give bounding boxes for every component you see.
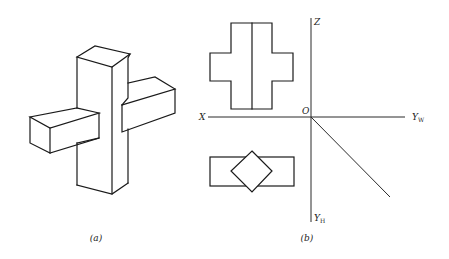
post-top-face: [77, 46, 130, 67]
projection-axes: [208, 18, 405, 222]
post-bottom-edge: [77, 183, 128, 194]
yh-axis-subscript: H: [320, 217, 325, 224]
isometric-solid: [30, 46, 175, 194]
origin-label: O: [302, 106, 310, 116]
front-view: [210, 23, 293, 109]
left-arm-front-face: [50, 113, 99, 153]
post-right-edge-upper: [122, 54, 130, 105]
x-axis-label: X: [198, 112, 206, 122]
diagonal-45-line: [311, 117, 390, 197]
caption-a: (a): [90, 233, 103, 243]
yw-axis-subscript: W: [418, 116, 425, 123]
z-axis-label: Z: [313, 17, 321, 27]
right-arm-top: [122, 77, 175, 105]
right-arm-front-face: [122, 89, 175, 132]
diagram-canvas: (a) X Z O Y W Y H (b): [0, 0, 449, 259]
top-view: [210, 151, 294, 192]
left-arm-bottom-join: [77, 138, 99, 143]
left-arm-top-back: [30, 108, 99, 128]
caption-b: (b): [301, 233, 314, 243]
